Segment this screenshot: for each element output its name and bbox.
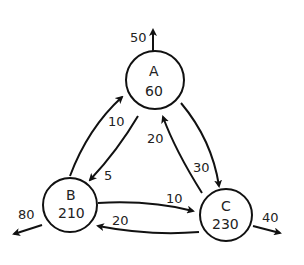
edge-c-to-a: 20 (147, 117, 202, 193)
edge-c-to-b: 20 (98, 213, 199, 233)
flow-diagram: A 60 B 210 C 230 50 80 40 10 5 30 (0, 0, 304, 265)
node-c-value: 230 (212, 216, 239, 232)
edge-b-to-a-label: 10 (108, 114, 125, 129)
edge-b-to-c-label: 10 (166, 191, 183, 206)
edge-b-to-a: 10 (70, 97, 125, 176)
edge-c-to-a-label: 20 (147, 131, 164, 146)
edge-a-to-b-label: 5 (104, 168, 112, 183)
node-c: C 230 (200, 189, 252, 241)
outflow-b-label: 80 (18, 207, 35, 222)
edge-b-to-c: 10 (98, 191, 193, 211)
node-a-name: A (149, 63, 159, 79)
node-c-name: C (221, 198, 231, 214)
node-b-value: 210 (58, 205, 85, 221)
outflow-b: 80 (14, 207, 42, 234)
outflow-a: 50 (130, 30, 153, 51)
node-b: B 210 (43, 178, 97, 232)
outflow-c: 40 (253, 210, 280, 233)
outflow-c-label: 40 (262, 210, 279, 225)
node-a-value: 60 (145, 83, 163, 99)
edge-a-to-c: 30 (181, 103, 219, 186)
outflow-a-label: 50 (130, 30, 147, 45)
edge-c-to-b-label: 20 (112, 213, 129, 228)
node-b-name: B (66, 187, 76, 203)
edge-a-to-c-label: 30 (193, 160, 210, 175)
node-a: A 60 (126, 51, 184, 109)
